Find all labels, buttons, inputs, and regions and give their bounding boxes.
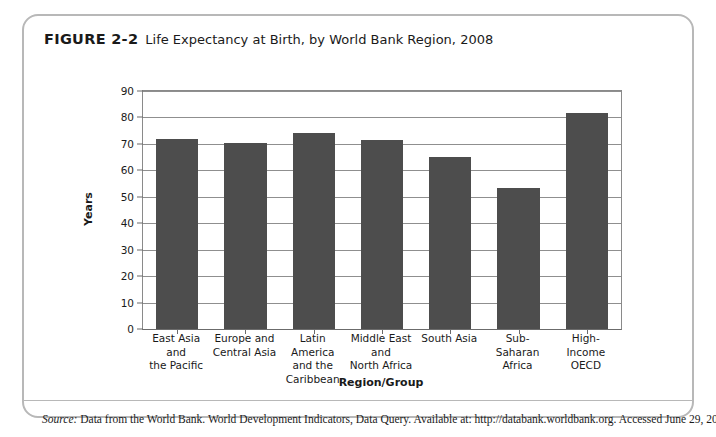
plot-box: 0102030405060708090 bbox=[142, 90, 622, 330]
bar-slot bbox=[484, 91, 552, 329]
y-axis-title: Years bbox=[82, 192, 95, 226]
y-tick-label: 90 bbox=[121, 85, 134, 97]
figure-frame: FIGURE 2-2Life Expectancy at Birth, by W… bbox=[22, 14, 694, 418]
bar[interactable] bbox=[361, 140, 403, 329]
y-tick-label: 50 bbox=[121, 191, 134, 203]
source-divider bbox=[24, 400, 692, 401]
bar[interactable] bbox=[293, 133, 335, 329]
y-tick-label: 80 bbox=[121, 111, 134, 123]
figure-number: FIGURE 2-2 bbox=[44, 31, 138, 47]
y-tick-label: 0 bbox=[127, 323, 134, 335]
figure-caption-text: Life Expectancy at Birth, by World Bank … bbox=[145, 32, 493, 47]
bar-slot bbox=[280, 91, 348, 329]
y-tick-label: 60 bbox=[121, 164, 134, 176]
y-tick-label: 40 bbox=[121, 217, 134, 229]
bar[interactable] bbox=[429, 157, 471, 329]
chart-area: Years 0102030405060708090 East Asia andt… bbox=[24, 60, 692, 380]
bar[interactable] bbox=[566, 113, 608, 329]
bar-slot bbox=[416, 91, 484, 329]
bar-slot bbox=[211, 91, 279, 329]
y-tick-label: 70 bbox=[121, 138, 134, 150]
source-note: Source: Data from the World Bank. World … bbox=[42, 412, 676, 426]
y-tick-label: 20 bbox=[121, 270, 134, 282]
bar-slot bbox=[553, 91, 621, 329]
figure-title: FIGURE 2-2Life Expectancy at Birth, by W… bbox=[44, 30, 672, 52]
bars-layer bbox=[143, 91, 621, 329]
source-text: Data from the World Bank. World Developm… bbox=[80, 413, 716, 425]
x-axis-title: Region/Group bbox=[142, 376, 620, 389]
y-tick-label: 30 bbox=[121, 244, 134, 256]
bar[interactable] bbox=[497, 188, 539, 329]
y-tick-label: 10 bbox=[121, 297, 134, 309]
bar-slot bbox=[143, 91, 211, 329]
source-label: Source: bbox=[42, 413, 77, 425]
bar[interactable] bbox=[156, 139, 198, 329]
bar-slot bbox=[348, 91, 416, 329]
bar[interactable] bbox=[224, 143, 266, 329]
